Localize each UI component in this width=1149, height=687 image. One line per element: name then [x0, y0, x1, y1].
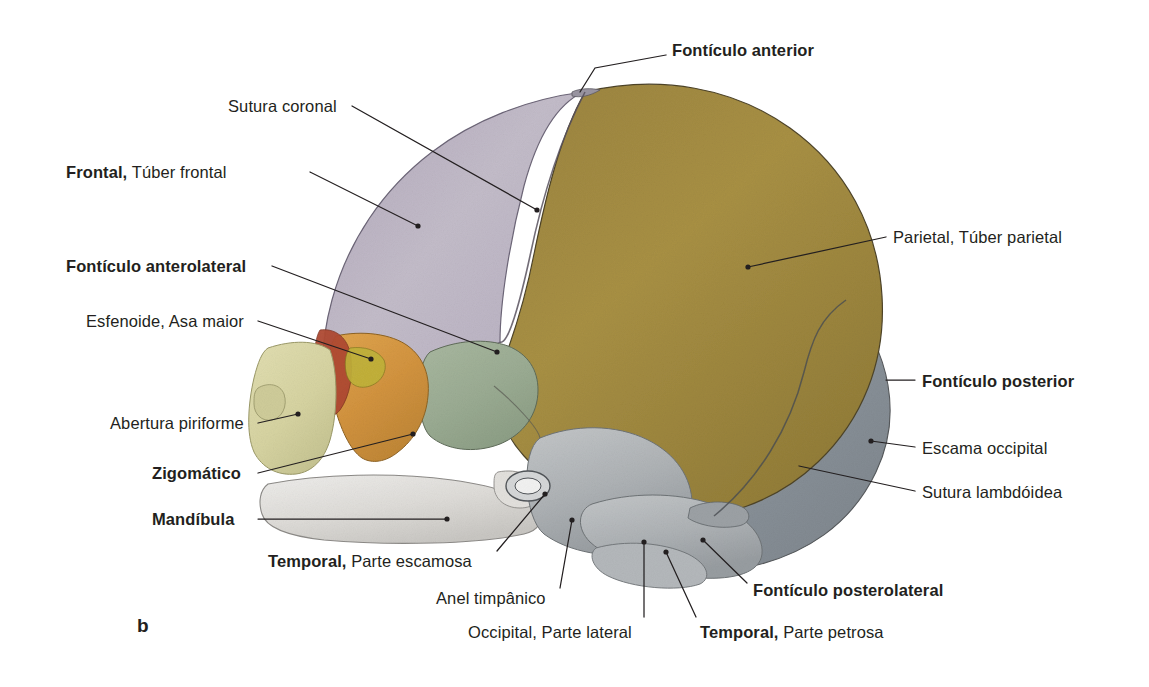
label-fonticulo-anterolateral-bold: Fontículo anterolateral: [66, 257, 246, 275]
label-escama-reg: Escama occipital: [922, 439, 1047, 457]
dot-fonticulo-posterolateral: [700, 537, 705, 542]
label-temporal-parte-petrosa: Temporal, Parte petrosa: [700, 623, 884, 642]
dot-parietal-tuber: [745, 264, 750, 269]
label-temporal-petrosa-bold: Temporal,: [700, 623, 779, 641]
dot-zigomatico: [410, 431, 415, 436]
dot-sutura-coronal: [534, 207, 539, 212]
label-fonticulo-anterior: Fontículo anterior: [672, 41, 814, 60]
dot-anel-timpanico: [569, 517, 574, 522]
label-fonticulo-posterior-bold: Fontículo posterior: [922, 372, 1074, 390]
label-sutura-coronal: Sutura coronal: [228, 97, 337, 116]
dot-mandibula: [444, 516, 449, 521]
label-fonticulo-posterolateral-bold: Fontículo posterolateral: [753, 581, 943, 599]
label-zigomatico-bold: Zigomático: [152, 464, 241, 482]
label-temporal-petrosa-reg: Parte petrosa: [779, 623, 884, 641]
panel-label: b: [137, 615, 149, 637]
label-anel-reg: Anel timpânico: [436, 589, 546, 607]
label-parietal-tuber-parietal: Parietal, Túber parietal: [893, 228, 1062, 247]
label-temporal-escamosa-reg: Parte escamosa: [347, 552, 472, 570]
label-temporal-escamosa-bold: Temporal,: [268, 552, 347, 570]
tympanic-ring-inner: [515, 478, 541, 494]
dot-occipital-lateral: [641, 539, 646, 544]
label-esfenoide-reg: Esfenoide, Asa maior: [86, 312, 244, 330]
dot-esfenoide: [368, 356, 373, 361]
label-fonticulo-anterolateral: Fontículo anterolateral: [66, 257, 246, 276]
label-lambdoidea-reg: Sutura lambdóidea: [922, 483, 1062, 501]
label-sutura-lambdoidea: Sutura lambdóidea: [922, 483, 1062, 502]
piriform-aperture-shape: [254, 385, 285, 421]
dot-frontal-tuber: [415, 223, 420, 228]
label-abertura-piriforme: Abertura piriforme: [110, 414, 244, 433]
label-occipital-lateral-reg: Occipital, Parte lateral: [468, 623, 632, 641]
label-frontal-bold: Frontal,: [66, 163, 127, 181]
anatomical-figure: Fontículo anterior Sutura coronal Fronta…: [0, 0, 1149, 687]
label-fonticulo-posterolateral: Fontículo posterolateral: [753, 581, 943, 600]
label-frontal-reg: Túber frontal: [127, 163, 226, 181]
label-frontal-tuber-frontal: Frontal, Túber frontal: [66, 163, 227, 182]
label-sutura-coronal-reg: Sutura coronal: [228, 97, 337, 115]
label-parietal-reg: Parietal, Túber parietal: [893, 228, 1062, 246]
dot-escama-occipital: [868, 438, 873, 443]
label-esfenoide-asa-maior: Esfenoide, Asa maior: [86, 312, 244, 331]
dot-temporal-petrosa: [663, 549, 668, 554]
label-fonticulo-anterior-bold: Fontículo anterior: [672, 41, 814, 59]
label-anel-timpanico: Anel timpânico: [436, 589, 546, 608]
label-occipital-parte-lateral: Occipital, Parte lateral: [468, 623, 632, 642]
skull-bones-group: [249, 84, 890, 588]
label-temporal-parte-escamosa: Temporal, Parte escamosa: [268, 552, 472, 571]
dot-abertura-piriforme: [295, 411, 300, 416]
label-abertura-reg: Abertura piriforme: [110, 414, 244, 432]
dot-temporal-escamosa: [542, 491, 547, 496]
dot-fonticulo-anterolateral: [494, 349, 499, 354]
label-mandibula-bold: Mandíbula: [152, 510, 234, 528]
label-mandibula: Mandíbula: [152, 510, 234, 529]
label-fonticulo-posterior: Fontículo posterior: [922, 372, 1074, 391]
label-zigomatico: Zigomático: [152, 464, 241, 483]
label-escama-occipital: Escama occipital: [922, 439, 1047, 458]
skull-illustration: [0, 0, 1149, 687]
